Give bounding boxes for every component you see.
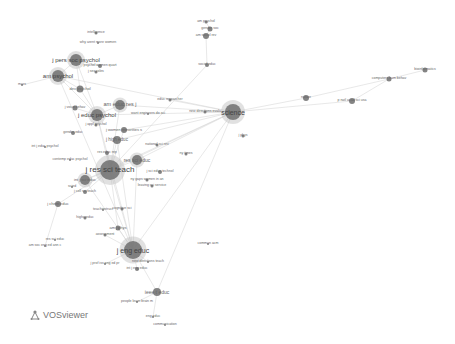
node-label: j phys (238, 134, 247, 138)
node-label: res sci educ (124, 158, 151, 163)
node-label: int j eng educ (127, 267, 148, 271)
node-label: want engineers do sci (131, 112, 165, 116)
node-label: j appl psychol (85, 123, 106, 127)
node-label: am educ res j (103, 102, 136, 108)
vosviewer-logo: VOSviewer (30, 310, 88, 320)
node-label: gender educ (63, 131, 82, 135)
node-label: gender soc (201, 27, 218, 31)
node-label: scied (68, 185, 76, 189)
node-label: am soc eng ed ann c (29, 244, 62, 248)
node-label: computers hum behav (372, 77, 407, 81)
node-label: j pers soc psychol (52, 57, 100, 63)
network-edge (306, 79, 389, 98)
node-label: cognitive sci (112, 207, 131, 211)
node-label: educ researcher (157, 98, 182, 102)
node-label: ny gaps women in an (130, 178, 163, 182)
node-label: j vocat behav (65, 106, 86, 110)
node-label: national sci rev (145, 143, 168, 147)
node-label: am psychol (43, 73, 73, 79)
node-label: int j educ psychol (32, 145, 59, 149)
node-label: am j phys (109, 226, 126, 230)
node-label: psychol women quart (83, 64, 116, 68)
vosviewer-logo-icon (30, 310, 40, 320)
node-label: res sci educ (46, 238, 65, 242)
node-label: j eng educ (117, 247, 149, 254)
node-label: j chem educ (47, 202, 69, 206)
nodes-layer (21, 21, 428, 327)
node-label: contemp educ psychol (53, 158, 88, 162)
node-label: leaving sci service (138, 184, 166, 188)
node-label: ieee t educ (145, 290, 169, 295)
node-label: sociol educ (198, 63, 216, 67)
node-label: j prof iss eng ed pr (91, 262, 120, 266)
node-label: p natl acad sci usa (338, 99, 367, 103)
node-label: people learn brain m (121, 300, 153, 304)
node-label: assessment (96, 233, 115, 237)
node-label: j res sci teach (86, 166, 135, 174)
node-label: am sociol rev (196, 34, 217, 38)
node-label: res educ rep (97, 151, 116, 155)
node-label: science (221, 109, 245, 116)
node-label: bioinformatics (414, 68, 436, 72)
node-label: why arent more women (80, 41, 116, 45)
node-label: dev psychol (69, 87, 90, 91)
node-label: communication (153, 323, 177, 327)
node-label: highereduc (76, 216, 93, 220)
network-map (0, 0, 455, 344)
node-label: teachinstruct (93, 208, 113, 212)
node-label: commun acm (197, 242, 218, 246)
node-label: new directions evalu (189, 110, 221, 114)
node-label: intelligence (87, 31, 105, 35)
network-edge (157, 112, 233, 292)
node-label: j educ psychol (78, 112, 116, 118)
node-label: j high educ (106, 138, 128, 143)
node-label: new directions teach (132, 260, 164, 264)
node-label: j sex roles (88, 70, 104, 74)
node-label: ny times (179, 152, 192, 156)
node-label: j sci educ technol (147, 170, 174, 174)
node-label: j coll sci teach (74, 190, 96, 194)
network-edge (233, 101, 352, 112)
node-label: eng educ (146, 315, 160, 319)
node-label: nature (301, 96, 311, 100)
vosviewer-logo-text: VOSviewer (43, 310, 88, 320)
node-label: am psychol (197, 20, 215, 24)
node-label: int j sci educ (74, 178, 96, 182)
node-label: j women minorities s (106, 128, 142, 132)
node-label: mars (18, 83, 26, 87)
network-edge (206, 36, 207, 65)
